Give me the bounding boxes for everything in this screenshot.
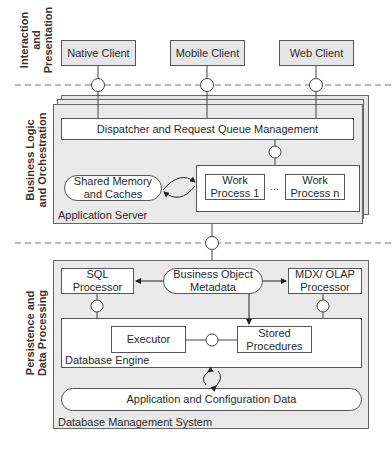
layer-label-line: and Orchestration — [36, 100, 48, 220]
work-process-1-line1: Work — [222, 174, 247, 187]
web-client-box: Web Client — [279, 40, 354, 66]
mdx-olap-processor-box: MDX/ OLAP Processor — [288, 268, 362, 294]
layer-label-line: Business Logic — [24, 100, 36, 220]
work-process-n-box: Work Process n — [285, 174, 345, 200]
sql-processor-box: SQL Processor — [61, 268, 134, 294]
database-engine-label: Database Engine — [65, 354, 149, 366]
dbms-label: Database Management System — [58, 416, 212, 428]
bom-line1: Business Object — [173, 268, 252, 281]
bom-line2: Metadata — [190, 281, 236, 294]
mobile-client-box: Mobile Client — [170, 40, 245, 66]
dispatcher-label: Dispatcher and Request Queue Management — [97, 123, 318, 136]
dispatcher-box: Dispatcher and Request Queue Management — [61, 118, 354, 140]
interface-circle-native — [92, 79, 105, 92]
native-client-label: Native Client — [67, 47, 129, 60]
layer-label-line: Persistence and — [24, 278, 36, 388]
shared-memory-pill: Shared Memory and Caches — [64, 175, 162, 201]
mdx-olap-line2: Processor — [300, 281, 350, 294]
sql-processor-line1: SQL — [86, 268, 108, 281]
layer-label-line: Interaction — [18, 0, 30, 80]
sql-processor-line2: Processor — [73, 281, 123, 294]
web-client-label: Web Client — [290, 47, 344, 60]
business-object-metadata-pill: Business Object Metadata — [163, 268, 263, 294]
interface-circle-mobile — [201, 79, 214, 92]
interface-circle-dbms — [206, 237, 219, 250]
layer-label-persistence: Persistence and Data Processing — [24, 278, 48, 388]
layer-label-business: Business Logic and Orchestration — [24, 100, 48, 220]
work-process-1-box: Work Process 1 — [205, 174, 265, 200]
native-client-box: Native Client — [61, 40, 136, 66]
app-config-data-pill: Application and Configuration Data — [61, 388, 362, 411]
application-server-label: Application Server — [58, 209, 147, 221]
stored-procedures-box: Stored Procedures — [237, 326, 312, 353]
interface-circle-web — [310, 79, 323, 92]
shared-memory-line2: and Caches — [84, 188, 143, 201]
layer-label-line: and — [30, 0, 42, 80]
shared-memory-line1: Shared Memory — [74, 175, 152, 188]
mobile-client-label: Mobile Client — [176, 47, 240, 60]
work-process-ellipsis: ... — [270, 180, 279, 192]
layer-label-line: Data Processing — [36, 278, 48, 388]
mdx-olap-line1: MDX/ OLAP — [295, 268, 355, 281]
stored-procedures-line2: Procedures — [246, 340, 302, 353]
executor-box: Executor — [111, 326, 186, 353]
stored-procedures-line1: Stored — [258, 327, 290, 340]
layer-label-line: Presentation — [42, 0, 54, 80]
work-process-n-line1: Work — [302, 174, 327, 187]
work-process-1-line2: Process 1 — [211, 187, 260, 200]
executor-label: Executor — [127, 333, 170, 346]
app-config-data-label: Application and Configuration Data — [126, 393, 296, 406]
layer-label-interaction: Interaction and Presentation — [18, 0, 54, 80]
work-process-n-line2: Process n — [291, 187, 340, 200]
